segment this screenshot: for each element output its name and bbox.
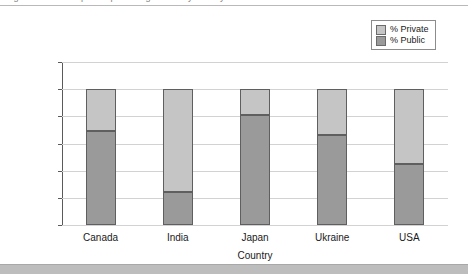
legend-label-private: % Private — [390, 24, 429, 35]
bar-group[interactable] — [240, 62, 270, 225]
legend-label-public: % Public — [390, 35, 425, 46]
bar-group[interactable] — [86, 62, 116, 225]
bar-segment[interactable] — [163, 192, 193, 225]
x-axis-tick-label: Canada — [62, 232, 140, 243]
y-axis-tick — [58, 171, 62, 172]
bar-segment[interactable] — [394, 164, 424, 225]
bar-segment[interactable] — [394, 89, 424, 164]
bar-segment[interactable] — [317, 135, 347, 225]
y-axis-tick — [58, 62, 62, 63]
legend-swatch-private — [376, 25, 386, 35]
y-axis-tick — [58, 144, 62, 145]
plot-area: 020406080100120 — [62, 62, 448, 225]
bar-segment[interactable] — [240, 89, 270, 115]
y-axis-tick — [58, 225, 62, 226]
x-axis-tick-label: Ukraine — [293, 232, 371, 243]
bar-segment[interactable] — [240, 115, 270, 225]
bar-segment[interactable] — [163, 89, 193, 192]
gridline — [62, 225, 448, 226]
legend-swatch-public — [376, 36, 386, 46]
bar-group[interactable] — [163, 62, 193, 225]
x-axis-title: Country — [62, 250, 448, 261]
y-axis-tick — [58, 89, 62, 90]
bar-segment[interactable] — [317, 89, 347, 135]
bar-group[interactable] — [317, 62, 347, 225]
chart-legend: % Private % Public — [371, 20, 436, 50]
y-axis-tick — [58, 198, 62, 199]
bar-segment[interactable] — [86, 89, 116, 131]
figure-container: Figure: Public and private percentage sh… — [0, 0, 468, 274]
x-axis-tick-label: USA — [370, 232, 448, 243]
legend-item-public: % Public — [376, 35, 429, 46]
header-divider — [0, 5, 468, 6]
y-axis-tick — [58, 116, 62, 117]
x-axis-tick-label: India — [139, 232, 217, 243]
legend-item-private: % Private — [376, 24, 429, 35]
footer-band — [0, 264, 468, 274]
bar-group[interactable] — [394, 62, 424, 225]
cropped-caption-text: Figure: Public and private percentage sh… — [6, 0, 225, 2]
x-axis-tick-label: Japan — [216, 232, 294, 243]
bar-segment[interactable] — [86, 131, 116, 225]
